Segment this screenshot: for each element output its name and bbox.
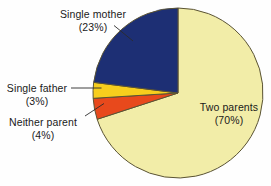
slice-label-single-mother-percent: (23%)	[45, 21, 141, 34]
pie-chart-figure: Single mother (23%) Single father (3%) N…	[0, 0, 271, 186]
slice-label-two-parents-name: Two parents	[200, 101, 258, 113]
slice-label-neither-parent-percent: (4%)	[0, 129, 86, 142]
slice-label-two-parents: Two parents (70%)	[190, 101, 268, 126]
slice-label-single-mother-name: Single mother	[60, 8, 126, 20]
slice-label-single-mother: Single mother (23%)	[45, 8, 141, 33]
slice-label-single-father-name: Single father	[7, 82, 67, 94]
slice-label-single-father-percent: (3%)	[2, 95, 72, 108]
slice-label-neither-parent: Neither parent (4%)	[0, 116, 86, 141]
slice-label-neither-parent-name: Neither parent	[9, 116, 77, 128]
slice-label-two-parents-percent: (70%)	[190, 114, 268, 127]
slice-label-single-father: Single father (3%)	[2, 82, 72, 107]
